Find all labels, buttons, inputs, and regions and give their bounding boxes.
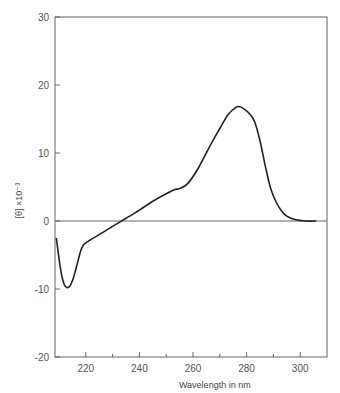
x-axis: 220240260280300 — [77, 352, 309, 374]
y-tick-label: 10 — [38, 148, 50, 159]
y-tick-label: 0 — [43, 216, 49, 227]
y-tick-label: 20 — [38, 80, 50, 91]
y-tick-label: 30 — [38, 12, 50, 23]
y-axis-label: [θ] ×10⁻³ — [14, 183, 24, 219]
x-tick-label: 280 — [238, 363, 255, 374]
y-tick-label: -20 — [35, 352, 50, 363]
spectrum-curve — [56, 106, 316, 287]
x-tick-label: 240 — [131, 363, 148, 374]
x-tick-label: 220 — [77, 363, 94, 374]
cd-spectrum-chart: -20-100102030 220240260280300 Wavelength… — [0, 0, 340, 393]
chart-container: -20-100102030 220240260280300 Wavelength… — [0, 0, 340, 393]
y-tick-label: -10 — [35, 284, 50, 295]
plot-border — [55, 17, 327, 357]
x-axis-label: Wavelength in nm — [179, 380, 251, 390]
x-tick-label: 260 — [185, 363, 202, 374]
plot-frame — [55, 17, 327, 357]
y-axis: -20-100102030 — [35, 12, 60, 363]
x-tick-label: 300 — [292, 363, 309, 374]
